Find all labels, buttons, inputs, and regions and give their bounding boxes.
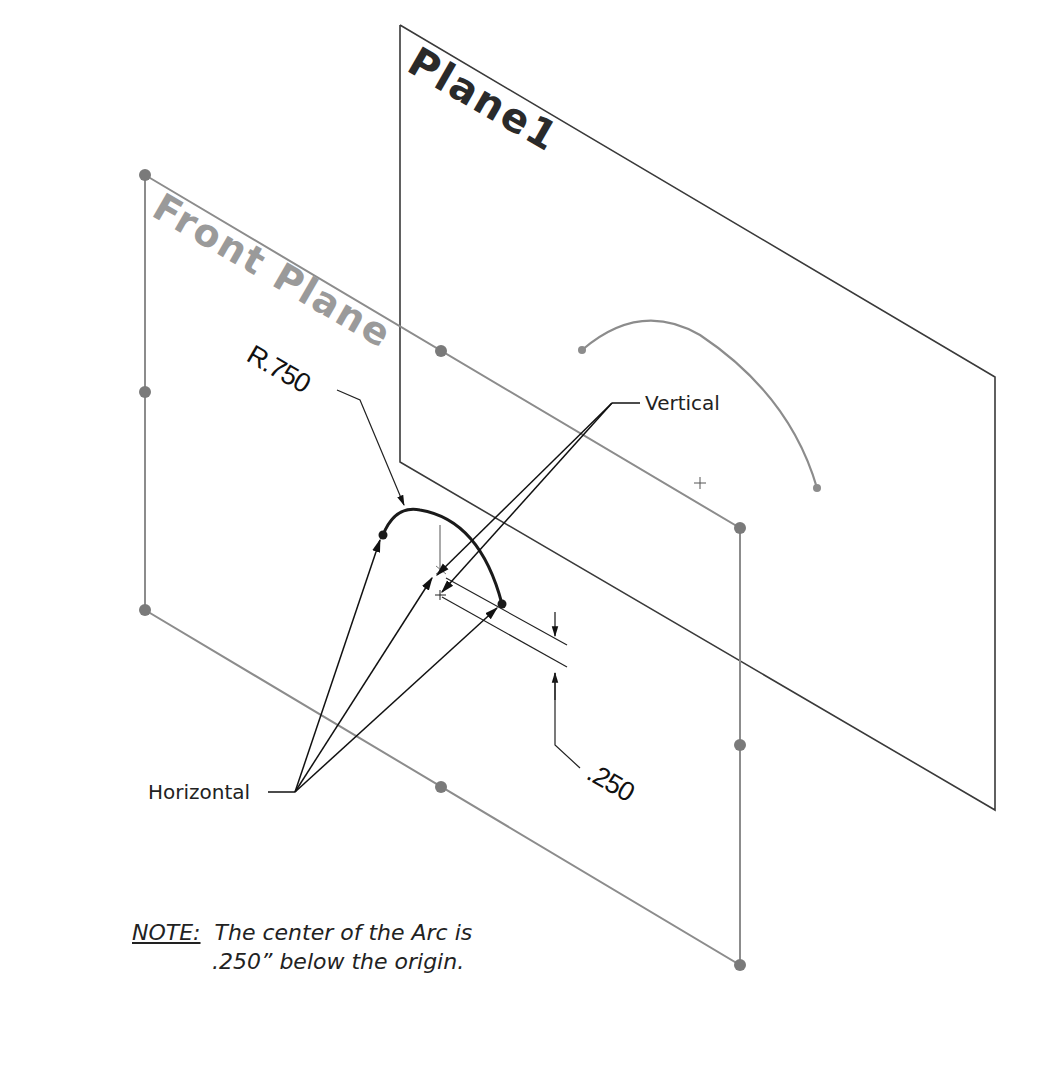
radius-dimension-text: R.750	[242, 339, 315, 399]
note-text-2: .250” below the origin.	[132, 947, 472, 976]
origin-marker-icon	[694, 477, 706, 489]
horizontal-callout: Horizontal	[148, 540, 497, 804]
vertical-callout-label: Vertical	[645, 391, 720, 415]
note-text-1: The center of the Arc is	[215, 920, 473, 945]
plane1[interactable]: Plane1	[400, 25, 995, 810]
note-block: NOTE:The center of the Arc is .250” belo…	[132, 918, 472, 976]
sketch-arc[interactable]	[379, 509, 507, 608]
offset-dimension-text: .250	[582, 757, 639, 807]
offset-dimension[interactable]: .250	[442, 578, 639, 807]
note-heading: NOTE:	[132, 920, 201, 945]
horizontal-callout-label: Horizontal	[148, 780, 250, 804]
plane1-label: Plane1	[401, 38, 567, 161]
isometric-sketch-diagram: Plane1 Front Plane	[0, 0, 1037, 1068]
front-plane-label: Front Plane	[146, 185, 400, 357]
note-line-1: NOTE:The center of the Arc is	[132, 918, 472, 947]
radius-dimension[interactable]: R.750	[242, 339, 404, 505]
